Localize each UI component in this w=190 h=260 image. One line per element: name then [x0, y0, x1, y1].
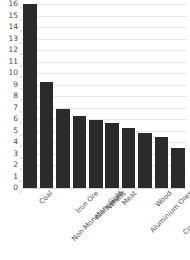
y-tick-label: 6	[13, 115, 18, 123]
y-tick-label: 10	[8, 69, 18, 77]
x-axis-category-labels: CoalNon-Monetary GoldIron OreAluminiumWh…	[22, 190, 186, 258]
bar	[171, 148, 184, 188]
y-tick-label: 7	[13, 104, 18, 112]
x-tick-label: Coal	[39, 190, 55, 206]
y-tick-label: 12	[8, 46, 18, 54]
bar	[56, 109, 69, 188]
y-tick-label: 3	[13, 150, 18, 158]
bar	[89, 120, 102, 188]
y-tick-label: 11	[8, 58, 18, 66]
y-tick-label: 4	[13, 138, 18, 146]
bar	[73, 116, 86, 188]
y-tick-label: 16	[8, 0, 18, 8]
gridline	[22, 188, 186, 189]
bar	[122, 128, 135, 188]
y-tick-label: 14	[8, 23, 18, 31]
y-axis: 012345678910111213141516	[0, 4, 22, 188]
y-tick-label: 15	[8, 12, 18, 20]
y-tick-label: 5	[13, 127, 18, 135]
y-tick-label: 13	[8, 35, 18, 43]
bar	[105, 123, 118, 188]
bar	[138, 133, 151, 188]
plot-area	[22, 4, 186, 188]
y-tick-label: 0	[13, 184, 18, 192]
bar	[23, 4, 36, 188]
y-tick-label: 1	[13, 173, 18, 181]
bar-chart: 012345678910111213141516 CoalNon-Monetar…	[0, 0, 190, 260]
y-tick-label: 2	[13, 161, 18, 169]
bar	[40, 82, 53, 188]
y-tick-label: 8	[13, 92, 18, 100]
y-tick-label: 9	[13, 81, 18, 89]
bar	[155, 137, 168, 188]
bar-series	[22, 4, 186, 188]
